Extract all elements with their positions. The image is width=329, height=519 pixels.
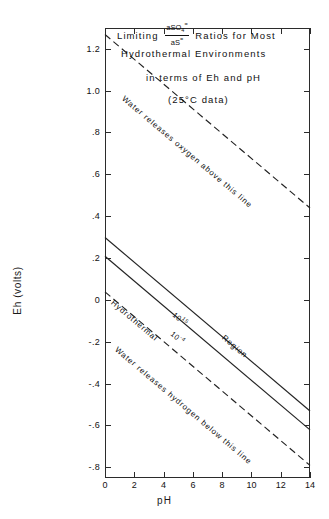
oxygen-boundary-line	[105, 35, 310, 209]
x-tick	[193, 472, 194, 478]
x-tick	[281, 28, 282, 34]
x-tick	[222, 472, 223, 478]
y-tick-label: .4	[62, 211, 100, 221]
x-tick-label: 6	[183, 480, 203, 490]
title-line-3: in terms of Eh and pH	[146, 72, 261, 83]
y-tick	[304, 384, 310, 385]
y-tick	[304, 91, 310, 92]
fraction-numerator: aSO4=	[165, 22, 188, 36]
y-tick-label: -.8	[62, 462, 100, 472]
x-tick-label: 8	[212, 480, 232, 490]
y-tick-label: .6	[62, 169, 100, 179]
title-line-2: Hydrothermal Environments	[121, 48, 266, 59]
y-tick	[304, 425, 310, 426]
y-tick	[105, 132, 111, 133]
x-tick	[251, 472, 252, 478]
y-tick-label: 1.2	[62, 44, 100, 54]
title-line-4: (25°C data)	[168, 94, 229, 105]
y-tick-label: .8	[62, 127, 100, 137]
y-tick	[105, 216, 111, 217]
x-tick-label: 14	[300, 480, 320, 490]
y-tick	[105, 342, 111, 343]
x-tick	[310, 472, 311, 478]
x-tick	[105, 28, 106, 34]
y-tick	[304, 49, 310, 50]
fraction-denominator: aS=	[165, 36, 188, 46]
hydrothermal-lower-line	[105, 256, 310, 430]
x-axis-title: pH	[0, 495, 329, 506]
y-tick-label: -.6	[62, 420, 100, 430]
eh-ph-diagram: 1.2 1.0 .8 .6 .4 .2 0 -.2 -.4 -.6 -.8	[0, 0, 329, 519]
y-tick-label: 0	[62, 295, 100, 305]
y-axis-title: Eh (volts)	[12, 241, 23, 341]
y-tick	[105, 174, 111, 175]
y-tick-label: -.2	[62, 337, 100, 347]
x-tick-label: 10	[241, 480, 261, 490]
title-limiting-word: Limiting	[117, 30, 159, 41]
y-tick	[304, 258, 310, 259]
x-tick	[310, 28, 311, 34]
x-tick	[164, 472, 165, 478]
y-tick	[105, 258, 111, 259]
y-tick	[105, 49, 111, 50]
y-tick	[105, 467, 111, 468]
x-tick-label: 12	[271, 480, 291, 490]
y-tick	[304, 132, 310, 133]
y-tick	[304, 342, 310, 343]
y-tick	[105, 91, 111, 92]
y-tick	[105, 384, 111, 385]
y-tick	[105, 425, 111, 426]
y-tick	[105, 300, 111, 301]
y-tick-label: .2	[62, 253, 100, 263]
x-tick	[105, 472, 106, 478]
y-tick-label: -.4	[62, 379, 100, 389]
activity-ratio-fraction: aSO4= aS=	[165, 22, 188, 46]
y-tick	[304, 174, 310, 175]
x-tick	[281, 472, 282, 478]
y-tick-label: 1.0	[62, 86, 100, 96]
title-ratios-phrase: Ratios for Most	[195, 30, 275, 41]
y-tick	[304, 300, 310, 301]
y-tick	[304, 467, 310, 468]
title-line-1: Limiting aSO4= aS= Ratios for Most	[117, 22, 276, 46]
y-tick	[304, 216, 310, 217]
x-tick	[134, 472, 135, 478]
x-tick-label: 2	[124, 480, 144, 490]
x-tick-label: 4	[154, 480, 174, 490]
x-tick-label: 0	[95, 480, 115, 490]
